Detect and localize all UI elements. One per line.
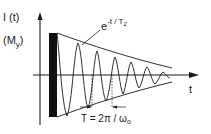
x-axis-label: t: [189, 83, 192, 95]
period-arrow-right-icon: [112, 106, 117, 109]
fid-diagram: I (t) (My) e-t / T2 t T = 2π / ωo: [0, 0, 211, 134]
x-axis-arrow-icon: [189, 72, 199, 78]
excitation-pulse: [49, 33, 57, 117]
y-axis-arrow-icon: [38, 12, 43, 20]
period-label: T = 2π / ωo: [81, 113, 131, 125]
envelope-label: e-t / T2: [101, 17, 127, 32]
envelope-leader-line: [82, 30, 100, 45]
y-axis: [38, 12, 43, 125]
y-axis-label: I (t): [3, 11, 20, 23]
y-axis-sublabel: (My): [3, 34, 24, 49]
lower-envelope: [57, 82, 172, 117]
x-axis: [33, 72, 199, 78]
